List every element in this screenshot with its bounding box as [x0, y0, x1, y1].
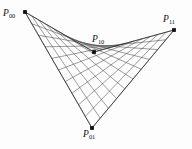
label-p10-subscript: 10 — [98, 38, 104, 45]
label-p11: P11 — [163, 15, 175, 25]
control-point-dots — [23, 10, 176, 130]
label-p00-subscript: 00 — [9, 12, 15, 19]
label-p10: P10 — [92, 35, 104, 45]
ruling-family-v — [25, 12, 174, 128]
label-p01: P01 — [83, 130, 95, 140]
bilinear-patch-figure: P00 P10 P11 P01 — [0, 0, 192, 149]
control-point-dot-p11 — [172, 28, 176, 32]
label-p01-base: P — [83, 129, 89, 139]
ruling-segment — [25, 12, 92, 128]
label-p11-subscript: 11 — [169, 18, 175, 25]
label-p11-base: P — [163, 14, 169, 24]
control-point-dot-p00 — [23, 10, 27, 14]
ruling-segment — [65, 39, 142, 82]
label-p10-base: P — [92, 34, 98, 44]
control-point-dot-p10 — [92, 50, 96, 54]
label-p00-base: P — [3, 8, 9, 18]
ruling-segment — [94, 30, 174, 52]
ruling-segment — [92, 30, 174, 128]
label-p01-subscript: 01 — [89, 133, 95, 140]
label-p00: P00 — [3, 9, 15, 19]
ruling-segment — [72, 37, 150, 94]
